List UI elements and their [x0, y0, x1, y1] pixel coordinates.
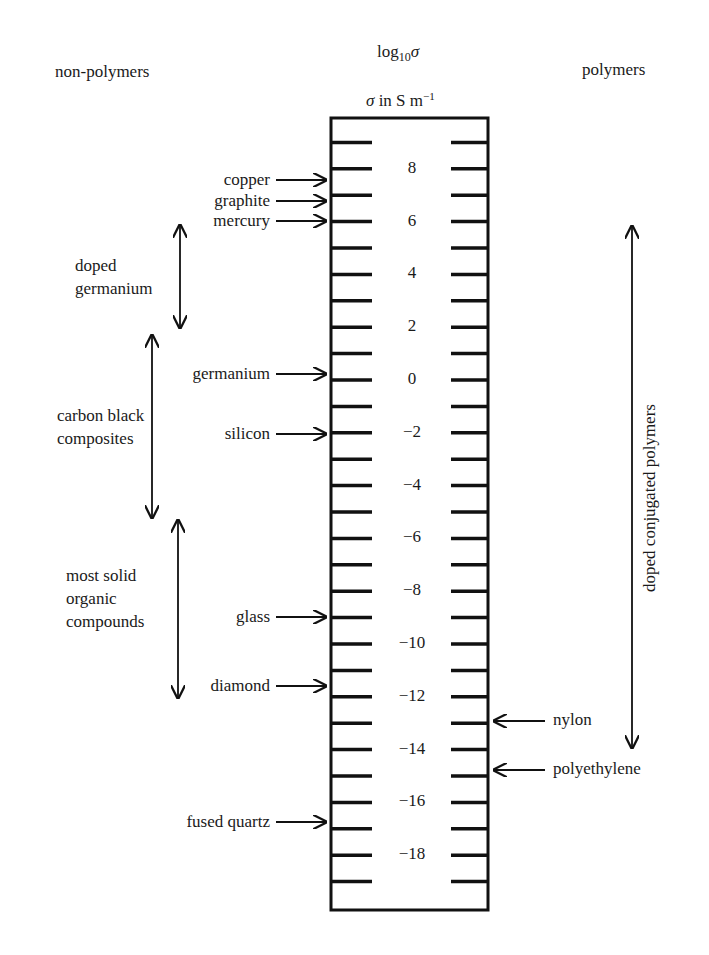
scale-number: −10 [382, 633, 442, 653]
scale-number: −8 [382, 580, 442, 600]
scale-number: −4 [382, 475, 442, 495]
scale-number: 4 [382, 263, 442, 283]
material-label-germanium: germanium [193, 364, 270, 384]
material-label-fused-quartz: fused quartz [186, 812, 270, 832]
scale-number: 6 [382, 211, 442, 231]
scale-number: −6 [382, 527, 442, 547]
scale-number: −14 [382, 739, 442, 759]
scale-number: −2 [382, 422, 442, 442]
material-label-silicon: silicon [225, 424, 270, 444]
scale-number: −16 [382, 791, 442, 811]
range-label-0-line-0: doped [75, 256, 117, 276]
range-label-0-line-1: germanium [75, 279, 152, 299]
range-label-2-line-2: compounds [66, 612, 144, 632]
material-label-glass: glass [236, 607, 270, 627]
range-label-2-line-1: organic [66, 589, 117, 609]
conductivity-scale-diagram: non-polymers polymers log10σ σ in S m−1 … [0, 0, 709, 955]
range-label-doped-conjugated-polymers: doped conjugated polymers [640, 403, 660, 593]
range-label-1-line-1: composites [57, 429, 134, 449]
material-label-copper: copper [224, 170, 270, 190]
range-label-2-line-0: most solid [66, 566, 136, 586]
material-label-nylon: nylon [553, 710, 592, 730]
material-label-graphite: graphite [214, 191, 270, 211]
material-label-polyethylene: polyethylene [553, 759, 641, 779]
scale-number: 2 [382, 316, 442, 336]
material-label-mercury: mercury [213, 211, 270, 231]
range-label-1-line-0: carbon black [57, 406, 144, 426]
scale-number: −18 [382, 844, 442, 864]
scale-graphic [0, 0, 709, 955]
scale-number: 0 [382, 369, 442, 389]
material-label-diamond: diamond [211, 676, 271, 696]
scale-number: 8 [382, 158, 442, 178]
scale-number: −12 [382, 686, 442, 706]
